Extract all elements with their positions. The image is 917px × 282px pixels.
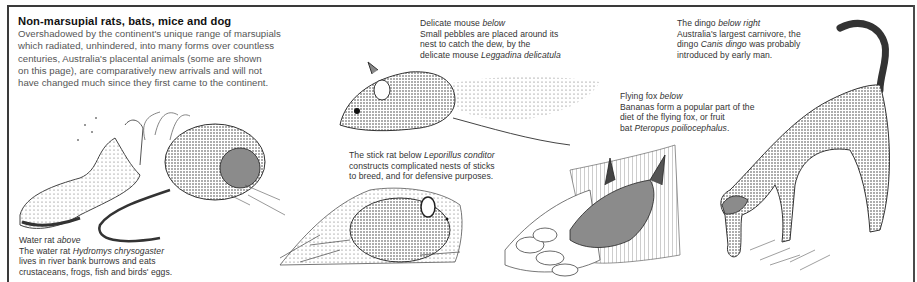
stick-rat-illustration (280, 188, 462, 265)
water-rat-illustration (20, 112, 285, 241)
delicate-mouse-illustration (340, 62, 600, 145)
flying-fox-illustration (505, 145, 680, 276)
dingo-illustration (721, 23, 890, 270)
illustrations-layer (0, 0, 917, 282)
